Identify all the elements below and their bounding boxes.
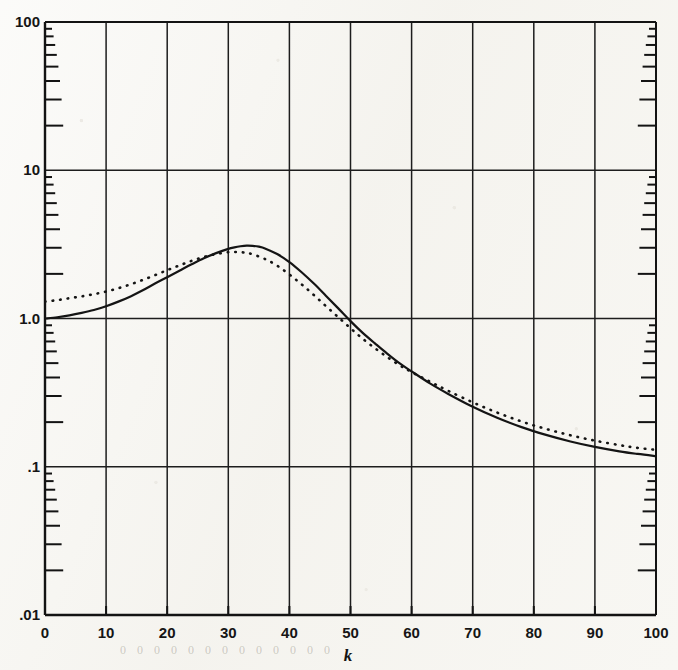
y-tick-label: 100: [15, 13, 40, 30]
y-axis-tick-labels: 100101.0.1.01: [15, 13, 40, 623]
y-tick-label: .1: [27, 458, 40, 475]
plot-canvas: 100101.0.1.01 0102030405060708090100 k: [0, 0, 678, 670]
scanned-log-plot-figure: 100101.0.1.01 0102030405060708090100 k 0…: [0, 0, 678, 670]
y-tick-label: 1.0: [19, 310, 40, 327]
x-tick-label: 100: [643, 624, 668, 641]
y-tick-label: 10: [23, 161, 40, 178]
x-tick-label: 50: [342, 624, 359, 641]
y-tick-label: .01: [19, 606, 40, 623]
x-tick-label: 60: [403, 624, 420, 641]
x-axis-title: k: [344, 646, 353, 665]
x-tick-label: 20: [159, 624, 176, 641]
x-tick-label: 80: [525, 624, 542, 641]
x-tick-label: 40: [281, 624, 298, 641]
x-tick-label: 70: [464, 624, 481, 641]
x-tick-label: 10: [98, 624, 115, 641]
x-tick-label: 0: [41, 624, 49, 641]
x-tick-label: 30: [220, 624, 237, 641]
x-axis-tick-labels: 0102030405060708090100: [41, 624, 669, 641]
x-tick-label: 90: [587, 624, 604, 641]
